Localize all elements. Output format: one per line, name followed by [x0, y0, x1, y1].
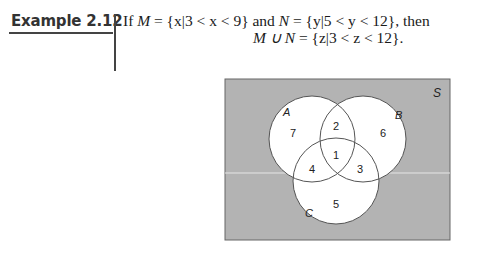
region-A-B-C: 1 — [333, 149, 339, 161]
venn-diagram: S A B C 7 2 6 1 4 3 5 — [0, 0, 486, 254]
region-A-C: 4 — [309, 163, 315, 175]
region-B-only: 6 — [380, 127, 386, 139]
circle-C-label: C — [305, 207, 313, 219]
region-A-B: 2 — [333, 120, 339, 132]
region-B-C: 3 — [357, 163, 363, 175]
circle-A-label: A — [282, 106, 290, 118]
region-A-only: 7 — [290, 127, 296, 139]
region-C-only: 5 — [333, 198, 339, 210]
circle-B-label: B — [395, 109, 402, 121]
universe-label: S — [433, 86, 441, 100]
